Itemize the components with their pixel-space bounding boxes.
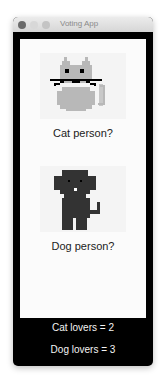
close-button[interactable] [18, 21, 26, 29]
dog-vote-label[interactable]: Dog person? [20, 240, 146, 252]
cat-vote-button[interactable] [40, 53, 126, 119]
title-bar[interactable]: Voting App [13, 17, 153, 32]
minimize-button[interactable] [30, 21, 38, 29]
dog-vote-button[interactable] [40, 166, 126, 232]
dog-lovers-count: Dog lovers = 3 [13, 344, 153, 355]
cat-lovers-count: Cat lovers = 2 [13, 322, 153, 333]
pixel-dog-icon [40, 166, 126, 232]
vote-panel: Cat person? [20, 39, 146, 318]
maximize-button[interactable] [42, 21, 50, 29]
window-title: Voting App [60, 19, 98, 28]
voting-app-window: Voting App [13, 17, 153, 366]
cat-vote-label[interactable]: Cat person? [20, 127, 146, 139]
pixel-cat-icon [40, 53, 126, 119]
